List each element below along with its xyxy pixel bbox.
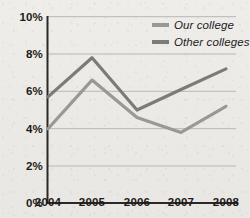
y-tick-label-6: 6% <box>26 85 43 97</box>
line-chart: 10% 8% 6% 4% 2% 0% 2004 2005 2006 2007 2… <box>0 0 250 218</box>
line-our-college <box>48 80 226 132</box>
y-tick-label-4: 4% <box>26 123 43 135</box>
chart-legend: Our college Other colleges <box>152 18 250 49</box>
line-other-colleges <box>48 58 226 110</box>
y-tick-label-2: 2% <box>26 160 43 172</box>
y-tick-label-8: 8% <box>26 48 43 60</box>
x-tick-label-2008: 2008 <box>213 196 239 208</box>
legend-label-other-colleges: Other colleges <box>174 36 250 48</box>
x-tick-label-2006: 2006 <box>124 196 150 208</box>
series-our-college <box>48 80 226 132</box>
legend-label-our-college: Our college <box>174 19 234 31</box>
legend-item-other-colleges: Other colleges <box>152 35 250 49</box>
series-other-colleges <box>48 58 226 110</box>
x-tick-label-2005: 2005 <box>79 196 105 208</box>
legend-swatch-our-college <box>152 23 169 27</box>
legend-swatch-other-colleges <box>152 40 169 44</box>
y-tick-label-10: 10% <box>19 11 43 23</box>
legend-item-our-college: Our college <box>152 18 250 32</box>
x-tick-label-2007: 2007 <box>168 196 194 208</box>
x-tick-label-2004: 2004 <box>35 196 61 208</box>
